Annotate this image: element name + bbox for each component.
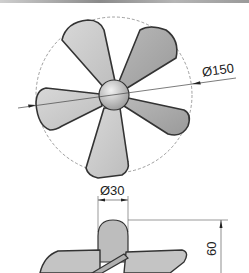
blade-left [36,88,102,130]
blade-upper-left [62,20,116,90]
blade-right [124,98,189,135]
blade-upper-right [118,27,177,90]
arrowhead-left [28,105,36,108]
propeller-drawing: Ø150 Ø30 60 [0,0,249,273]
height-label: 60 [204,242,219,256]
side-view: Ø30 60 [40,183,228,273]
side-blade-left [40,250,100,273]
blade-bottom [86,108,128,178]
arrowhead-right [192,81,201,84]
top-view: Ø150 [18,17,236,178]
height-arrow-top [220,220,223,228]
hub-arrow-right [121,199,128,202]
hub-arrow-left [98,199,105,202]
outer-diameter-label: Ø150 [201,60,235,79]
side-blade-right [124,250,187,273]
hub-diameter-label: Ø30 [100,183,125,198]
